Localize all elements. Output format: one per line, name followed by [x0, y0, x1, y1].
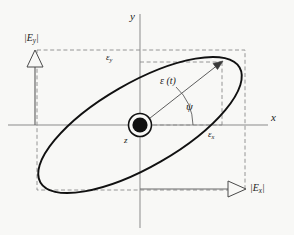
epsilon-x-component-label: εx — [208, 130, 214, 140]
polarization-ellipse-figure: y x z εy εx ε (t) ψ |Ey| |Ex| — [0, 0, 294, 235]
ey-arrow-open-head-icon — [27, 50, 43, 67]
z-axis-dot-icon — [132, 117, 147, 132]
epsilon-y-component-label: εy — [106, 53, 112, 63]
figure-canvas — [0, 0, 294, 235]
ey-magnitude-close: | — [36, 32, 39, 43]
ex-magnitude-label: |Ex| — [250, 183, 265, 195]
psi-angle-label: ψ — [186, 101, 193, 112]
ex-magnitude-open: |E — [250, 182, 259, 193]
x-axis-label: x — [271, 112, 276, 123]
y-axis-label: y — [130, 11, 135, 22]
ey-magnitude-label: |Ey| — [24, 33, 39, 45]
ex-magnitude-close: | — [262, 182, 265, 193]
epsilon-y-subscript: y — [110, 56, 113, 63]
ex-arrow-open-head-icon — [228, 181, 246, 197]
epsilon-t-vector-label: ε (t) — [160, 76, 176, 86]
z-axis-label: z — [124, 136, 128, 145]
epsilon-x-subscript: x — [212, 133, 215, 140]
ey-magnitude-open: |E — [24, 32, 33, 43]
